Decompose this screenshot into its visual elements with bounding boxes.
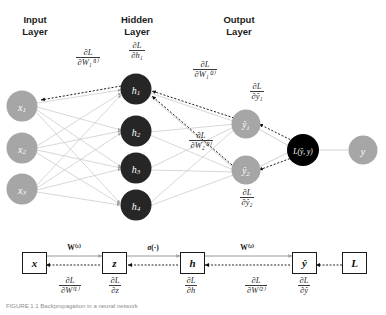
hidden-node-group: h1 h2 h3 h4 bbox=[121, 74, 152, 221]
gradient-denominator: ∂W⁽¹⁾ bbox=[59, 285, 81, 295]
gradient-numerator: ∂L bbox=[298, 276, 311, 285]
gradient-denominator: ∂W₁⁽²⁾ bbox=[193, 69, 218, 79]
figure-canvas: x1 x2 x3 h1 h2 h3 h4 ŷ1 ŷ2 L(ŷ, y) bbox=[0, 0, 386, 315]
flow-gradient-dW1: ∂L ∂W⁽¹⁾ bbox=[38, 276, 102, 297]
gradient-dL-dyhat2: ∂L ∂ŷ₂ bbox=[218, 188, 276, 209]
gradient-denominator: ∂ŷ₁ bbox=[250, 91, 265, 101]
edges-input-to-hidden bbox=[37, 90, 121, 205]
flow-box-x: x bbox=[22, 252, 47, 274]
input-node-group: x1 x2 x3 bbox=[7, 91, 38, 205]
gradient-denominator: ∂ŷ bbox=[298, 285, 311, 295]
gradient-dL-dW1-2: ∂L ∂W₁⁽²⁾ bbox=[172, 60, 238, 81]
node-loss-label: L(ŷ, y) bbox=[292, 147, 313, 156]
flow-box-z: z bbox=[102, 252, 127, 274]
gradient-numerator: ∂L bbox=[189, 131, 214, 140]
gradient-denominator: ∂W₂⁽²⁾ bbox=[189, 140, 214, 150]
flow-gradient-dyhat: ∂L ∂ŷ bbox=[286, 276, 322, 297]
flow-label-W1: W⁽¹⁾ bbox=[53, 243, 95, 252]
gradient-dL-dW2-2: ∂L ∂W₂⁽²⁾ bbox=[168, 131, 234, 152]
gradient-numerator: ∂L bbox=[245, 276, 267, 285]
gradient-dL-dyhat1: ∂L ∂ŷ₁ bbox=[228, 82, 286, 103]
gradient-numerator: ∂L bbox=[59, 276, 81, 285]
gradient-denominator: ∂h₁ bbox=[129, 50, 144, 60]
flow-label-W2: W⁽²⁾ bbox=[226, 243, 268, 252]
gradient-numerator: ∂L bbox=[129, 41, 144, 50]
gradient-numerator: ∂L bbox=[240, 188, 255, 197]
gradient-denominator: ∂ŷ₂ bbox=[240, 197, 255, 207]
gradient-numerator: ∂L bbox=[193, 60, 218, 69]
gradient-numerator: ∂L bbox=[76, 48, 101, 57]
flow-gradient-dz: ∂L ∂z bbox=[98, 276, 132, 297]
gradient-numerator: ∂L bbox=[250, 82, 265, 91]
output-layer-title: Output Layer bbox=[208, 14, 270, 37]
hidden-layer-title: Hidden Layer bbox=[106, 14, 168, 37]
output-node-group: ŷ1 ŷ2 bbox=[232, 110, 261, 185]
figure-caption: FIGURE 1.1 Backpropagation in a neural n… bbox=[6, 303, 382, 309]
gradient-denominator: ∂W⁽²⁾ bbox=[245, 285, 267, 295]
flow-box-L: L bbox=[342, 252, 367, 274]
flow-gradient-dW2: ∂L ∂W⁽²⁾ bbox=[224, 276, 288, 297]
flow-box-yhat: ŷ bbox=[292, 252, 317, 274]
gradient-dL-dh1: ∂L ∂h₁ bbox=[111, 41, 163, 62]
node-target-label: y bbox=[360, 146, 366, 157]
gradient-denominator: ∂h bbox=[185, 285, 198, 295]
gradient-numerator: ∂L bbox=[109, 276, 122, 285]
gradient-denominator: ∂W₁⁽¹⁾ bbox=[76, 57, 101, 67]
flow-label-sigma: σ(·) bbox=[132, 243, 174, 252]
gradient-numerator: ∂L bbox=[185, 276, 198, 285]
flow-box-h: h bbox=[180, 252, 205, 274]
flow-gradient-dh: ∂L ∂h bbox=[173, 276, 209, 297]
input-layer-title: Input Layer bbox=[4, 14, 66, 37]
gradient-denominator: ∂z bbox=[109, 285, 122, 295]
